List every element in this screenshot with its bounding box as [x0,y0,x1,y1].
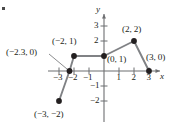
y-tick-3: 3 [94,21,99,30]
label-point-2-2: (2, 2) [122,25,141,35]
x-tick-neg3: −3 [53,73,63,82]
label-point-neg3-neg2: (−3, −2) [34,110,63,120]
leader-line-neg23-0 [49,54,67,69]
label-point-neg2-1: (−2, 1) [52,37,76,47]
point-2-2 [131,38,137,44]
x-tick-1: 1 [117,73,122,82]
y-tick-2: 2 [94,36,99,45]
graph-figure: x y −3 −2 −1 1 2 3 3 2 −1 −2 (−2.3, 0) (… [0,0,172,132]
point-neg2-1 [71,53,77,59]
label-point-neg23-0: (−2.3, 0) [6,48,37,58]
coordinate-plane-svg [0,0,172,132]
point-neg3-neg2 [56,98,62,104]
y-axis [101,14,108,122]
x-tick-neg2: −2 [68,73,78,82]
y-tick-neg1: −1 [90,81,100,90]
x-tick-2: 2 [132,73,137,82]
x-tick-3: 3 [147,73,152,82]
x-axis-label: x [160,71,164,81]
label-point-3-0: (3, 0) [146,53,165,63]
label-point-0-1: (0, 1) [107,55,126,65]
y-tick-neg2: −2 [90,96,100,105]
y-axis-label: y [96,4,100,14]
